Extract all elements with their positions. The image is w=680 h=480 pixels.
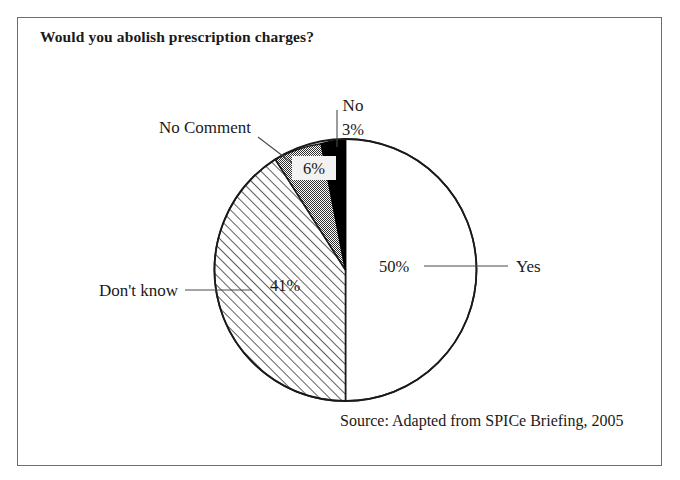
pie-slice-yes[interactable] (346, 139, 477, 401)
category-label-dont-know: Don't know (99, 281, 179, 300)
source-note: Source: Adapted from SPICe Briefing, 200… (340, 412, 624, 430)
category-label-no-comment: No Comment (159, 118, 251, 137)
category-label-no: No (343, 96, 364, 115)
slice-value-no-comment: 6% (303, 159, 325, 178)
pie-chart: 50% 41% 6% 3% Yes Don't know No Comment … (0, 0, 680, 480)
slice-value-no: 3% (342, 120, 364, 139)
slice-value-dont-know: 41% (270, 276, 301, 295)
category-label-yes: Yes (516, 257, 541, 276)
slice-value-yes: 50% (379, 257, 410, 276)
